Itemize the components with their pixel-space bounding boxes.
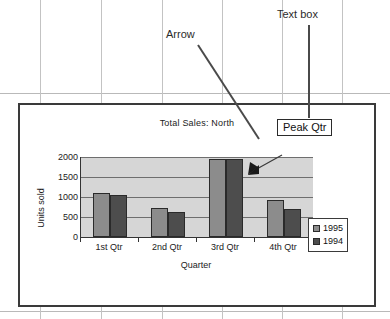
textbox-callout-leader-line	[308, 25, 310, 118]
bar-group	[81, 157, 139, 237]
y-axis-tick-labels: 0500100015002000	[42, 157, 78, 237]
x-axis-title: Quarter	[80, 260, 312, 270]
arrow-callout-label: Arrow	[166, 28, 195, 40]
peak-qtr-arrow-icon[interactable]	[244, 153, 284, 179]
bar[interactable]	[209, 159, 226, 237]
textbox-callout-label: Text box	[277, 8, 318, 20]
bar-group	[139, 157, 197, 237]
y-axis-tick-label: 2000	[58, 152, 78, 162]
chart-object[interactable]: Total Sales: North Units sold 0500100015…	[18, 103, 376, 307]
legend-label: 1995	[323, 222, 343, 235]
legend-label: 1994	[323, 235, 343, 248]
y-axis-tick-label: 1000	[58, 192, 78, 202]
legend-item[interactable]: 1994	[313, 235, 343, 248]
x-axis-tick-labels: 1st Qtr2nd Qtr3rd Qtr4th Qtr	[80, 242, 312, 252]
bar[interactable]	[284, 209, 301, 237]
chart-legend[interactable]: 19951994	[308, 218, 348, 252]
worksheet-gridline-horizontal	[0, 93, 390, 94]
bar[interactable]	[226, 159, 243, 237]
peak-qtr-text-box[interactable]: Peak Qtr	[277, 119, 332, 136]
x-axis-tick-label: 4th Qtr	[254, 242, 312, 252]
worksheet-gridline-horizontal	[0, 311, 390, 312]
legend-swatch-icon	[313, 238, 320, 245]
bar[interactable]	[151, 208, 168, 237]
y-axis-tick-label: 0	[73, 232, 78, 242]
bar[interactable]	[267, 200, 284, 237]
y-axis-tick-label: 500	[63, 212, 78, 222]
x-axis-tick-label: 1st Qtr	[80, 242, 138, 252]
legend-swatch-icon	[313, 225, 320, 232]
bar[interactable]	[110, 195, 127, 237]
x-axis-tick-label: 2nd Qtr	[138, 242, 196, 252]
x-axis-tick-label: 3rd Qtr	[196, 242, 254, 252]
legend-item[interactable]: 1995	[313, 222, 343, 235]
bar[interactable]	[168, 212, 185, 237]
y-axis-tick-label: 1500	[58, 172, 78, 182]
bar[interactable]	[93, 193, 110, 237]
